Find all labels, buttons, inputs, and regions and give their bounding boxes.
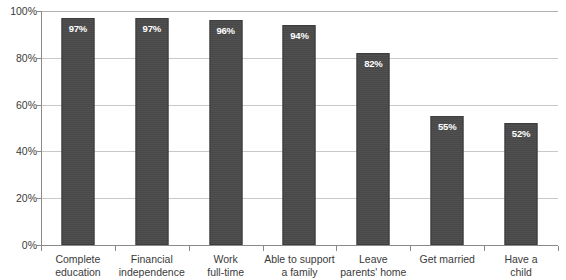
y-axis-tick-mark	[36, 198, 41, 199]
y-axis-tick-label: 100%	[3, 5, 37, 17]
bar-slot: 52%	[484, 11, 558, 245]
x-axis-category-label: Leaveparents' home	[336, 253, 410, 278]
y-axis-tick-mark	[36, 151, 41, 152]
x-axis-tick-mark	[484, 246, 485, 251]
bar-slot: 97%	[115, 11, 189, 245]
y-axis-tick-mark	[36, 58, 41, 59]
bar-slot: 82%	[336, 11, 410, 245]
x-axis-tick-mark	[115, 246, 116, 251]
x-axis-tick-mark	[189, 246, 190, 251]
bar-value-label: 52%	[506, 128, 537, 139]
x-axis-tick-mark	[263, 246, 264, 251]
x-axis-category-label-line: Complete	[41, 253, 115, 266]
bar[interactable]: 55%	[431, 116, 464, 245]
x-axis-category-label: Workfull-time	[189, 253, 263, 278]
gridline-0	[41, 245, 558, 246]
bar-value-label: 97%	[136, 23, 167, 34]
bar-slot: 55%	[410, 11, 484, 245]
x-axis-category-label: Have achild	[484, 253, 558, 278]
y-axis-tick-mark	[36, 105, 41, 106]
bar-value-label: 94%	[284, 30, 315, 41]
bar[interactable]: 82%	[357, 53, 390, 245]
x-axis-category-label-line: Have a	[484, 253, 558, 266]
bar-value-label: 96%	[210, 25, 241, 36]
y-axis-tick-mark	[36, 11, 41, 12]
bar-value-label: 55%	[432, 121, 463, 132]
y-axis-tick-label: 40%	[3, 145, 37, 157]
x-axis-tick-mark	[410, 246, 411, 251]
plot-area: 97%97%96%94%82%55%52%	[41, 11, 558, 245]
bar[interactable]: 94%	[283, 25, 316, 245]
bar[interactable]: 97%	[61, 18, 94, 245]
bar[interactable]: 97%	[135, 18, 168, 245]
x-axis-category-label: Get married	[410, 253, 484, 266]
x-axis-category-label-line: Work	[189, 253, 263, 266]
x-axis-category-label-line: full-time	[189, 266, 263, 279]
x-axis-category-label-line: a family	[263, 266, 337, 279]
bar-value-label: 82%	[358, 58, 389, 69]
y-axis-tick-label: 80%	[3, 52, 37, 64]
y-axis-line	[41, 11, 42, 246]
x-axis-category-label-line: Financial	[115, 253, 189, 266]
x-axis-category-label-line: parents' home	[336, 266, 410, 279]
x-axis-tick-mark	[336, 246, 337, 251]
bar-slot: 97%	[41, 11, 115, 245]
y-axis-tick-label: 0%	[3, 239, 37, 251]
bar-value-label: 97%	[62, 23, 93, 34]
bar-chart: 97%97%96%94%82%55%52% 0%20%40%60%80%100%…	[0, 0, 566, 280]
x-axis-tick-mark	[558, 246, 559, 251]
x-axis-category-label: Financialindependence	[115, 253, 189, 278]
bar[interactable]: 52%	[505, 123, 538, 245]
x-axis-category-label-line: Leave	[336, 253, 410, 266]
x-axis-category-label-line: education	[41, 266, 115, 279]
y-axis-tick-label: 20%	[3, 192, 37, 204]
x-axis-category-label: Completeeducation	[41, 253, 115, 278]
bar[interactable]: 96%	[209, 20, 242, 245]
y-axis: 0%20%40%60%80%100%	[0, 0, 37, 280]
x-axis-category-label-line: child	[484, 266, 558, 279]
bar-slot: 94%	[263, 11, 337, 245]
x-axis-tick-mark	[41, 246, 42, 251]
bar-slot: 96%	[189, 11, 263, 245]
x-axis-category-label-line: Get married	[410, 253, 484, 266]
x-axis-category-label-line: independence	[115, 266, 189, 279]
x-axis-category-label-line: Able to support	[263, 253, 337, 266]
y-axis-tick-label: 60%	[3, 99, 37, 111]
x-axis-category-label: Able to supporta family	[263, 253, 337, 278]
